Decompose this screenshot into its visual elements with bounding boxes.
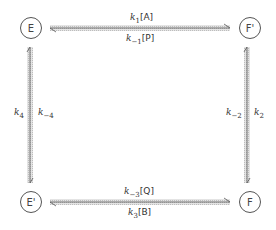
k-subscript: 2 [259, 112, 263, 120]
k-subscript: −4 [43, 112, 53, 120]
node-E-label: E [28, 23, 34, 34]
species: [B] [138, 207, 151, 217]
label-k4: k4 [14, 107, 24, 120]
node-F-label: F [247, 197, 253, 208]
node-F: F [239, 191, 261, 213]
label-k-3-Q: k−3[Q] [124, 186, 154, 199]
label-k-1-P: k−1[P] [126, 33, 154, 46]
right-arrow [244, 47, 250, 183]
node-E: E [20, 17, 42, 39]
k-subscript: −3 [129, 191, 139, 199]
k-subscript: 4 [19, 112, 23, 120]
label-k1-A: k1[A] [130, 12, 153, 25]
node-F-prime: F' [239, 17, 261, 39]
species: [P] [142, 33, 154, 43]
bottom-arrow [50, 198, 230, 206]
node-F-prime-label: F' [246, 23, 255, 34]
k-subscript: −1 [131, 38, 141, 46]
top-arrow [50, 24, 230, 32]
node-E-prime: E' [20, 191, 42, 213]
left-arrow [27, 47, 33, 183]
label-k-4: k−4 [38, 107, 54, 120]
label-k3-B: k3[B] [128, 207, 151, 220]
label-k2: k2 [254, 107, 264, 120]
species: [Q] [140, 186, 154, 196]
node-E-prime-label: E' [26, 197, 35, 208]
label-k-2: k−2 [226, 107, 242, 120]
species: [A] [140, 12, 153, 22]
k-subscript: −2 [231, 112, 241, 120]
